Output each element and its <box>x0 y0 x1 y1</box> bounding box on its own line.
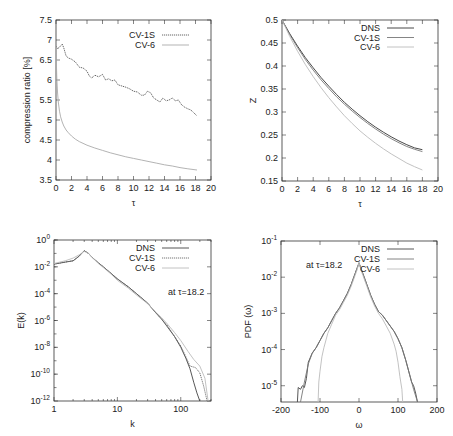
x-tick-label: 2 <box>295 184 300 194</box>
page-header <box>260 0 453 4</box>
y-tick-label: 10-1 <box>261 234 277 246</box>
x-tick-label: 6 <box>100 183 105 193</box>
x-tick-label: 200 <box>429 405 444 415</box>
x-tick-label: 4 <box>84 183 89 193</box>
y-tick-label: 3.5 <box>39 175 52 185</box>
legend-label: CV-1S <box>354 254 380 264</box>
x-tick-label: -200 <box>272 405 290 415</box>
x-tick-label: 18 <box>417 184 427 194</box>
y-tick-label: 7 <box>47 35 52 45</box>
annotation-time: at τ=18.2 <box>306 260 342 270</box>
y-tick-label: 10-8 <box>34 340 50 352</box>
x-tick-label: 10 <box>355 184 365 194</box>
series-line-cv-1s <box>56 44 197 116</box>
x-tick-label: 0 <box>356 405 361 415</box>
legend-label: CV-6 <box>135 40 155 50</box>
y-tick-label: 10-6 <box>34 314 50 326</box>
y-tick-label: 10-12 <box>31 394 51 406</box>
y-axis-label: E(k) <box>16 312 26 329</box>
x-tick-label: 4 <box>311 184 316 194</box>
x-tick-label: 100 <box>173 404 188 414</box>
plot-area <box>282 20 422 170</box>
legend-label: CV-1S <box>354 33 380 43</box>
y-tick-label: 10-5 <box>261 379 277 391</box>
y-tick-label: 100 <box>36 233 50 245</box>
x-axis-label: τ <box>132 198 136 208</box>
y-tick-label: 0.35 <box>260 84 278 94</box>
y-tick-label: 10-3 <box>261 306 277 318</box>
legend-label: DNS <box>361 244 380 254</box>
x-tick-label: 14 <box>386 184 396 194</box>
series-line-dns <box>297 263 417 402</box>
legend: DNSCV-1SCV-6 <box>354 23 414 52</box>
x-axis-label: τ <box>358 199 362 209</box>
plot-frame <box>56 20 211 180</box>
y-tick-label: 7.5 <box>39 15 52 25</box>
panel-compression-ratio: 024681012141618203.544.555.566.577.5τcom… <box>22 15 216 208</box>
legend: DNSCV-1SCV-6 <box>354 244 414 274</box>
x-axis-label: k <box>130 419 135 429</box>
x-tick-label: 0 <box>279 184 284 194</box>
x-tick-label: -100 <box>311 405 329 415</box>
series-line-cv-6 <box>54 251 208 401</box>
x-tick-label: 6 <box>326 184 331 194</box>
y-tick-label: 6 <box>47 75 52 85</box>
series-line-cv-6 <box>56 44 197 170</box>
series-line-cv-1s <box>282 20 422 152</box>
y-tick-label: 0.25 <box>260 130 278 140</box>
panel-energy-spectrum: 11010010010-210-410-610-810-1010-12kE(k)… <box>16 233 211 429</box>
x-tick-label: 2 <box>69 183 74 193</box>
series-line-cv-1s <box>54 251 207 401</box>
y-tick-label: 0.2 <box>265 153 278 163</box>
x-tick-label: 8 <box>115 183 120 193</box>
x-tick-label: 20 <box>433 184 443 194</box>
y-tick-label: 0.45 <box>260 38 278 48</box>
y-axis-label: PDF (ω) <box>243 305 253 339</box>
plot-area <box>297 263 417 402</box>
legend-label: DNS <box>361 23 380 33</box>
legend-label: CV-1S <box>129 30 155 40</box>
x-tick-label: 20 <box>206 183 216 193</box>
legend-label: CV-1S <box>129 253 155 263</box>
y-tick-label: 10-4 <box>34 287 50 299</box>
y-tick-label: 10-4 <box>261 343 277 355</box>
plot-frame <box>54 240 211 401</box>
x-tick-label: 18 <box>190 183 200 193</box>
legend-label: DNS <box>136 243 155 253</box>
x-tick-label: 12 <box>144 183 154 193</box>
y-tick-label: 0.4 <box>265 61 278 71</box>
x-tick-label: 10 <box>128 183 138 193</box>
x-tick-label: 10 <box>112 404 122 414</box>
figure: 024681012141618203.544.555.566.577.5τcom… <box>0 0 453 436</box>
x-tick-label: 12 <box>371 184 381 194</box>
plot-area <box>56 44 197 170</box>
x-tick-label: 16 <box>175 183 185 193</box>
series-line-cv-6 <box>318 263 403 402</box>
x-tick-label: 0 <box>53 183 58 193</box>
series-line-dns <box>282 20 422 150</box>
legend-label: CV-6 <box>135 263 155 273</box>
legend: CV-1SCV-6 <box>129 30 189 50</box>
x-tick-label: 1 <box>51 404 56 414</box>
x-tick-label: 14 <box>159 183 169 193</box>
series-line-dns <box>54 251 200 401</box>
y-tick-label: 5.5 <box>39 95 52 105</box>
y-tick-label: 10-2 <box>34 260 50 272</box>
y-tick-label: 0.15 <box>260 176 278 186</box>
y-tick-label: 0.3 <box>265 107 278 117</box>
annotation-time: at τ=18.2 <box>168 287 204 297</box>
panel-z: 024681012141618200.150.20.250.30.350.40.… <box>248 15 443 209</box>
y-tick-label: 10-10 <box>31 367 51 379</box>
x-axis-label: ω <box>355 420 362 430</box>
y-tick-label: 4.5 <box>39 135 52 145</box>
plot-area <box>54 251 208 401</box>
panel-vorticity-pdf: -200-100010020010-110-210-310-410-5ωPDF … <box>243 234 445 430</box>
series-line-cv-6 <box>282 20 422 170</box>
x-tick-label: 100 <box>390 405 405 415</box>
y-axis-label: compression ratio [%] <box>22 57 32 144</box>
y-tick-label: 0.5 <box>265 15 278 25</box>
y-tick-label: 6.5 <box>39 55 52 65</box>
x-tick-label: 8 <box>342 184 347 194</box>
legend: DNSCV-1SCV-6 <box>129 243 189 273</box>
legend-label: CV-6 <box>360 42 380 52</box>
